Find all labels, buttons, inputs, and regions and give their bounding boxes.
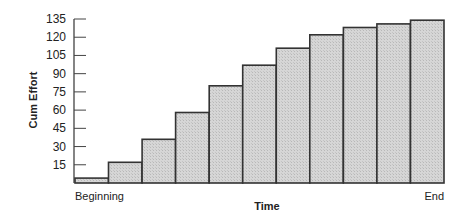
bar: [209, 86, 243, 183]
y-tick-label: 30: [53, 140, 67, 154]
bar: [109, 162, 143, 183]
y-tick-label: 15: [53, 158, 67, 172]
bar: [343, 28, 377, 184]
y-tick-label: 105: [46, 48, 66, 62]
bar: [142, 139, 176, 183]
y-tick-label: 120: [46, 30, 66, 44]
y-tick-label: 135: [46, 12, 66, 26]
bar: [176, 113, 210, 184]
bar: [310, 35, 344, 183]
bar: [243, 65, 277, 183]
bar: [411, 20, 445, 183]
y-tick-label: 60: [53, 103, 67, 117]
x-axis-title: Time: [254, 200, 279, 212]
bar: [75, 178, 109, 183]
bar: [276, 48, 310, 183]
y-axis: 153045607590105120135: [46, 12, 86, 183]
y-tick-label: 45: [53, 121, 67, 135]
y-axis-title: Cum Effort: [27, 71, 39, 128]
y-tick-label: 90: [53, 67, 67, 81]
cumulative-effort-chart: 153045607590105120135 Cum Effort Time Be…: [0, 0, 468, 220]
y-tick-label: 75: [53, 85, 67, 99]
x-start-label: Beginning: [75, 190, 124, 202]
x-end-label: End: [424, 190, 444, 202]
bar: [377, 24, 411, 183]
bars: [75, 20, 444, 183]
